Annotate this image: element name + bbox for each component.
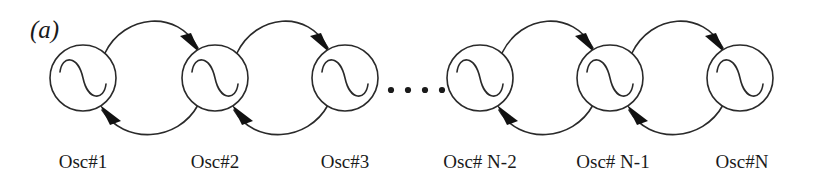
oscillator-label-osc2: Osc#2 [191, 151, 240, 172]
arrowhead-left-icon [497, 105, 518, 125]
oscillator-node-osc2[interactable] [182, 45, 248, 111]
oscillator-node-osc3[interactable] [312, 45, 378, 111]
oscillator-labels: Osc#1 Osc#2 Osc#3 Osc# N-2 Osc# N-1 Osc#… [59, 151, 769, 172]
oscillator-node-oscN-1[interactable] [577, 45, 643, 111]
coupling-arc-osc2-to-osc3 [237, 21, 330, 53]
coupling-arc-osc1-to-osc2 [105, 21, 200, 53]
panel-label: (a) [30, 16, 59, 44]
oscillator-label-oscN-2: Osc# N-2 [443, 151, 516, 172]
forward-coupling-arcs [105, 21, 725, 53]
figure-panel-a: (a) [0, 0, 813, 180]
coupling-arc-osc3-to-osc2 [232, 105, 328, 135]
coupling-arc-oscN-1-to-oscN-2 [497, 105, 593, 135]
oscillator-label-oscN: Osc#N [716, 151, 769, 172]
oscillator-node-oscN-2[interactable] [447, 45, 513, 111]
oscillator-node-oscN[interactable] [707, 45, 773, 111]
arrowhead-left-icon [232, 105, 253, 125]
ellipsis-icon [388, 87, 445, 93]
oscillator-nodes [50, 45, 773, 111]
coupling-arc-osc2-to-osc1 [100, 105, 198, 135]
coupled-oscillator-diagram: (a) [0, 0, 813, 180]
oscillator-label-osc1: Osc#1 [59, 151, 108, 172]
coupling-arc-oscN-1-to-oscN [632, 21, 725, 53]
oscillator-label-oscN-1: Osc# N-1 [576, 151, 649, 172]
oscillator-label-osc3: Osc#3 [321, 151, 370, 172]
arrowhead-left-icon [627, 105, 648, 125]
ellipsis-dot [388, 87, 394, 93]
ellipsis-dot [422, 87, 428, 93]
arrowhead-left-icon [100, 105, 121, 125]
oscillator-node-osc1[interactable] [50, 45, 116, 111]
ellipsis-dot [439, 87, 445, 93]
coupling-arc-oscN-to-oscN-1 [627, 105, 723, 135]
backward-coupling-arcs [100, 105, 723, 135]
coupling-arc-oscN-2-to-oscN-1 [502, 21, 595, 53]
ellipsis-dot [405, 87, 411, 93]
